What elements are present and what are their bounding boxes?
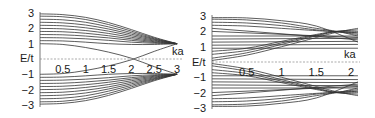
right-band-plot: 321−1−2−30.511.52 E/t ka	[192, 10, 360, 114]
band-curve	[212, 41, 358, 42]
left-xlabel: ka	[172, 45, 185, 57]
y-tick-label: 3	[28, 7, 34, 19]
y-tick-label: 1	[200, 41, 206, 53]
y-tick-label: −3	[193, 102, 206, 114]
y-tick-label: −1	[21, 68, 34, 80]
x-tick-label: 2	[348, 66, 354, 78]
y-tick-label: 3	[200, 10, 206, 22]
x-tick-label: 1	[278, 66, 284, 78]
left-band-plot: 321−1−2−30.511.522.53 E/t ka	[20, 7, 185, 111]
right-xlabel: ka	[344, 48, 357, 60]
band-structure-figure: 321−1−2−30.511.522.53 E/t ka 321−1−2−30.…	[0, 0, 375, 118]
y-tick-label: 2	[200, 25, 206, 37]
y-tick-label: −2	[193, 87, 206, 99]
y-tick-label: −1	[193, 71, 206, 83]
y-tick-label: 2	[28, 22, 34, 34]
left-ylabel: E/t	[20, 52, 33, 64]
right-ylabel: E/t	[192, 56, 205, 68]
band-curve	[212, 84, 358, 95]
band-curve	[212, 28, 358, 39]
x-tick-label: 2.5	[147, 63, 162, 75]
x-tick-label: 2	[128, 63, 134, 75]
x-tick-label: 1.5	[309, 66, 324, 78]
band-curve	[212, 91, 358, 99]
x-tick-label: 0.5	[55, 63, 70, 75]
y-tick-label: −3	[21, 99, 34, 111]
x-tick-label: 1	[83, 63, 89, 75]
y-tick-label: 1	[28, 38, 34, 50]
band-curve	[212, 44, 358, 45]
x-tick-label: 1.5	[101, 63, 116, 75]
x-tick-label: 3	[174, 63, 180, 75]
band-curve	[212, 82, 358, 83]
band-curve	[212, 25, 358, 33]
x-tick-label: 0.5	[239, 66, 254, 78]
band-curve	[212, 79, 358, 80]
y-tick-label: −2	[21, 84, 34, 96]
